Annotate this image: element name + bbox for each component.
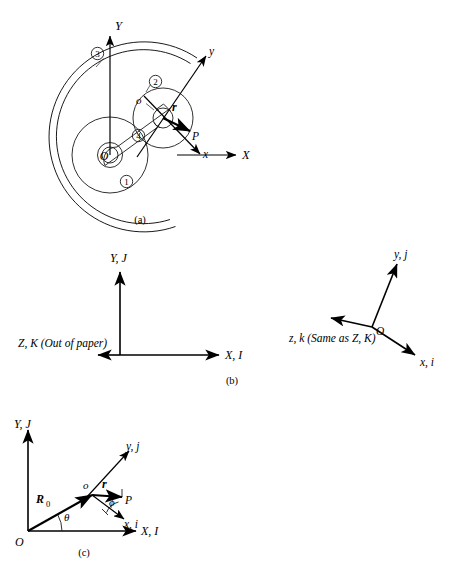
panel-caption-c: (c) (78, 547, 90, 559)
panel-c: Y, J X, I y, j x, i O o P r R 0 θ ϕ (c) (14, 417, 159, 559)
vector-label-r-a: r (172, 100, 177, 114)
ring-gear-outer-arc (49, 42, 197, 232)
panel-b-rotating-frame: y, j x, i z, k (Same as Z, K) O (288, 248, 434, 369)
axis-label-xi-b: x, i (419, 356, 434, 369)
point-label-P-a: P (191, 130, 199, 142)
axis-label-y-small-a: y (208, 45, 215, 58)
svg-text:2: 2 (153, 77, 158, 87)
body-label-1: 1 (120, 175, 132, 187)
body-label-2: 2 (149, 75, 161, 87)
point-label-P-c: P (124, 494, 132, 506)
svg-text:1: 1 (124, 177, 129, 187)
vector-label-R-subscript-c: 0 (46, 499, 50, 509)
origin-label-o-a: o (136, 94, 142, 106)
panel-caption-a: (a) (134, 214, 146, 226)
figure-canvas: 3 2 1 4 Y X y x O o P r (a) (0, 0, 471, 561)
angle-label-phi-c: ϕ (109, 496, 115, 508)
axis-z-b (331, 318, 372, 327)
body-label-3: 3 (91, 47, 103, 59)
axis-label-Y-a: Y (115, 19, 124, 33)
axis-label-xi-c: x, i (123, 518, 138, 531)
axis-label-yj-b: y, j (393, 248, 407, 261)
origin-label-O-b: O (376, 325, 385, 337)
origin-label-O-a: O (100, 149, 109, 163)
svg-text:4: 4 (136, 131, 141, 141)
vector-r-c (92, 495, 122, 497)
axis-label-zk-b: z, k (Same as Z, K) (288, 332, 376, 345)
origin-label-o-c: o (83, 479, 89, 491)
axis-label-yj-c: y, j (125, 440, 139, 453)
origin-label-O-c: O (15, 535, 24, 549)
axis-label-XI-b: X, I (224, 348, 243, 362)
axis-label-x-small-a: x (202, 148, 209, 160)
axis-x-c (92, 495, 124, 519)
vector-label-r-c: r (102, 477, 107, 491)
axis-label-X-a: X (241, 148, 251, 162)
technical-figure: 3 2 1 4 Y X y x O o P r (a) (0, 0, 471, 561)
axis-y-b (372, 264, 397, 327)
svg-text:3: 3 (95, 49, 100, 59)
axis-label-XI-c: X, I (140, 524, 159, 538)
axis-label-YJ-b: Y, J (110, 251, 128, 265)
vector-label-R0-c: R 0 (35, 492, 50, 509)
panel-caption-b: (b) (226, 375, 239, 387)
angle-arc-theta-c (58, 515, 62, 531)
panel-a: 3 2 1 4 Y X y x O o P r (a) (49, 19, 251, 232)
axis-label-ZK-b: Z, K (Out of paper) (18, 337, 107, 350)
vector-label-R-c: R (35, 492, 44, 506)
angle-label-theta-c: θ (64, 511, 70, 523)
axis-label-YJ-c: Y, J (14, 417, 32, 431)
panel-b-fixed-frame: Y, J X, I Z, K (Out of paper) (b) (18, 251, 243, 387)
